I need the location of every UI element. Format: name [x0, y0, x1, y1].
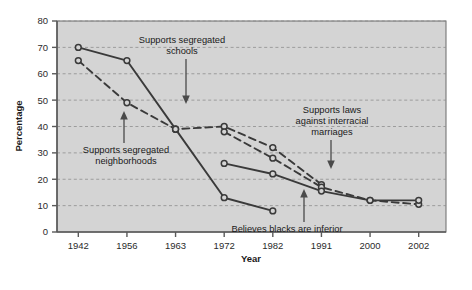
x-tick-label: 1991 [311, 240, 332, 251]
data-point-marker [416, 197, 422, 203]
y-tick-label: 20 [37, 174, 48, 185]
x-tick-label: 1972 [214, 240, 235, 251]
annotation-interracial-line-1: Supports laws [303, 105, 362, 115]
x-tick-label: 2000 [359, 240, 380, 251]
data-point-marker [367, 197, 373, 203]
x-axis-title: Year [241, 253, 261, 264]
annotation-schools-line-1: Supports segregated [139, 35, 225, 45]
chart-figure: 01020304050607080 1942195619631972198219… [0, 0, 472, 290]
x-tick-label: 1963 [165, 240, 186, 251]
data-point-marker [221, 195, 227, 201]
annotation-neighborhoods-line-2: neighborhoods [95, 156, 157, 166]
y-tick-label: 50 [37, 95, 48, 106]
x-tick-label: 1956 [116, 240, 137, 251]
data-point-marker [124, 100, 130, 106]
annotation-inferior-line-1: Believes blacks are inferior [231, 224, 342, 234]
data-point-marker [270, 155, 276, 161]
x-tick-label: 1942 [68, 240, 89, 251]
data-point-marker [270, 145, 276, 151]
data-point-marker [173, 126, 179, 132]
data-point-marker [270, 171, 276, 177]
data-point-marker [221, 129, 227, 135]
y-tick-label: 10 [37, 200, 48, 211]
x-tick-label: 1982 [262, 240, 283, 251]
y-tick-label: 70 [37, 42, 48, 53]
line-chart: 01020304050607080 1942195619631972198219… [0, 0, 472, 290]
annotation-neighborhoods-line-1: Supports segregated [83, 145, 169, 155]
data-point-marker [319, 188, 325, 194]
annotation-interracial-line-3: marriages [311, 127, 353, 137]
y-tick-label: 0 [43, 226, 48, 237]
annotation-schools-line-2: schools [166, 46, 198, 56]
y-tick-label: 60 [37, 68, 48, 79]
data-point-marker [221, 161, 227, 167]
y-tick-label: 30 [37, 147, 48, 158]
y-axis-title: Percentage [13, 100, 24, 151]
data-point-marker [75, 44, 81, 50]
y-tick-label: 80 [37, 15, 48, 26]
data-point-marker [75, 58, 81, 64]
data-point-marker [270, 208, 276, 214]
x-tick-label: 2002 [408, 240, 429, 251]
y-tick-label: 40 [37, 121, 48, 132]
data-point-marker [124, 58, 130, 64]
annotation-interracial-line-2: against interracial [296, 116, 369, 126]
